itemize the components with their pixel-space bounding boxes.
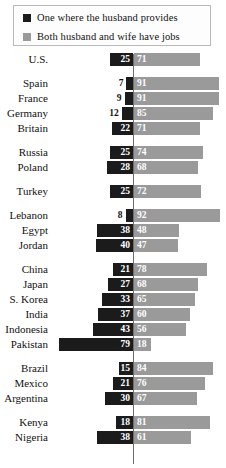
chart-row: Egypt3848 <box>0 223 226 238</box>
row-bars: 3861 <box>0 430 226 445</box>
row-bars: 791 <box>0 76 226 91</box>
value-both-have-jobs: 72 <box>137 185 157 198</box>
country-group-north-america: U.S.2571 <box>0 52 226 67</box>
row-bars: 7918 <box>0 337 226 352</box>
row-bars: 3848 <box>0 223 226 238</box>
group-separator <box>0 352 226 361</box>
row-bars: 2768 <box>0 277 226 292</box>
chart-row: Argentina3067 <box>0 391 226 406</box>
row-bars: 991 <box>0 91 226 106</box>
country-group-asia: China2178Japan2768S. Korea3365India3760I… <box>0 262 226 352</box>
row-bars: 2271 <box>0 121 226 136</box>
value-both-have-jobs: 65 <box>137 293 157 306</box>
value-both-have-jobs: 91 <box>137 92 157 105</box>
value-husband-provides: 7 <box>110 77 123 90</box>
value-husband-provides: 21 <box>113 263 130 276</box>
country-group-africa: Kenya1881Nigeria3861 <box>0 415 226 445</box>
value-both-have-jobs: 68 <box>137 161 157 174</box>
chart-row: U.S.2571 <box>0 52 226 67</box>
legend-item-both-jobs: Both husband and wife have jobs <box>23 27 210 46</box>
chart-row: Pakistan7918 <box>0 337 226 352</box>
row-bars: 3067 <box>0 391 226 406</box>
value-husband-provides: 8 <box>110 209 123 222</box>
row-bars: 892 <box>0 208 226 223</box>
chart-row: France991 <box>0 91 226 106</box>
chart-row: India3760 <box>0 307 226 322</box>
group-separator <box>0 253 226 262</box>
value-both-have-jobs: 71 <box>137 53 157 66</box>
country-group-latin-america: Brazil1584Mexico2176Argentina3067 <box>0 361 226 406</box>
country-group-middle-east: Lebanon892Egypt3848Jordan4047 <box>0 208 226 253</box>
group-separator <box>0 199 226 208</box>
chart-row: Mexico2176 <box>0 376 226 391</box>
value-both-have-jobs: 56 <box>137 323 157 336</box>
chart-row: Kenya1881 <box>0 415 226 430</box>
legend-swatch-husband-provides <box>23 14 31 22</box>
bar-husband-provides <box>126 209 133 222</box>
chart-row: Japan2768 <box>0 277 226 292</box>
diverging-bar-chart: U.S.2571Spain791France991Germany1285Brit… <box>0 52 226 468</box>
value-both-have-jobs: 18 <box>137 338 157 351</box>
chart-row: Brazil1584 <box>0 361 226 376</box>
chart-row: China2178 <box>0 262 226 277</box>
row-bars: 2571 <box>0 52 226 67</box>
bar-husband-provides <box>125 92 133 105</box>
group-separator <box>0 175 226 184</box>
value-husband-provides: 25 <box>110 146 130 159</box>
value-husband-provides: 38 <box>97 431 130 444</box>
row-bars: 4356 <box>0 322 226 337</box>
country-group-turkey: Turkey2572 <box>0 184 226 199</box>
value-husband-provides: 38 <box>97 224 130 237</box>
legend-label-both-jobs: Both husband and wife have jobs <box>37 31 180 42</box>
chart-row: Turkey2572 <box>0 184 226 199</box>
value-husband-provides: 79 <box>59 338 130 351</box>
value-husband-provides: 12 <box>106 107 119 120</box>
value-both-have-jobs: 84 <box>137 362 157 375</box>
value-husband-provides: 21 <box>113 377 130 390</box>
value-both-have-jobs: 81 <box>137 416 157 429</box>
legend: One where the husband provides Both husb… <box>13 5 211 46</box>
group-separator <box>0 67 226 76</box>
chart-row: Indonesia4356 <box>0 322 226 337</box>
chart-rows: U.S.2571Spain791France991Germany1285Brit… <box>0 52 226 445</box>
country-group-western-europe: Spain791France991Germany1285Britain2271 <box>0 76 226 136</box>
value-husband-provides: 43 <box>93 323 130 336</box>
value-husband-provides: 37 <box>98 308 130 321</box>
row-bars: 1881 <box>0 415 226 430</box>
legend-item-husband-provides: One where the husband provides <box>23 8 210 27</box>
value-husband-provides: 30 <box>105 392 130 405</box>
value-both-have-jobs: 76 <box>137 377 157 390</box>
row-bars: 3365 <box>0 292 226 307</box>
chart-row: S. Korea3365 <box>0 292 226 307</box>
legend-swatch-both-jobs <box>23 33 31 41</box>
row-bars: 2178 <box>0 262 226 277</box>
group-separator <box>0 406 226 415</box>
value-both-have-jobs: 47 <box>137 239 157 252</box>
chart-row: Germany1285 <box>0 106 226 121</box>
value-husband-provides: 40 <box>96 239 130 252</box>
chart-row: Nigeria3861 <box>0 430 226 445</box>
row-bars: 2176 <box>0 376 226 391</box>
bar-husband-provides <box>126 77 133 90</box>
value-both-have-jobs: 60 <box>137 308 157 321</box>
value-both-have-jobs: 91 <box>137 77 157 90</box>
value-both-have-jobs: 48 <box>137 224 157 237</box>
chart-row: Russia2574 <box>0 145 226 160</box>
value-both-have-jobs: 85 <box>137 107 157 120</box>
chart-row: Jordan4047 <box>0 238 226 253</box>
chart-row: Lebanon892 <box>0 208 226 223</box>
row-bars: 1285 <box>0 106 226 121</box>
row-bars: 2868 <box>0 160 226 175</box>
row-bars: 2572 <box>0 184 226 199</box>
value-husband-provides: 28 <box>107 161 130 174</box>
value-both-have-jobs: 67 <box>137 392 157 405</box>
chart-row: Poland2868 <box>0 160 226 175</box>
value-husband-provides: 15 <box>119 362 130 375</box>
value-both-have-jobs: 61 <box>137 431 157 444</box>
value-both-have-jobs: 78 <box>137 263 157 276</box>
value-husband-provides: 33 <box>102 293 130 306</box>
value-husband-provides: 18 <box>116 416 130 429</box>
value-husband-provides: 22 <box>112 122 130 135</box>
legend-label-husband-provides: One where the husband provides <box>37 12 178 23</box>
value-both-have-jobs: 92 <box>137 209 157 222</box>
